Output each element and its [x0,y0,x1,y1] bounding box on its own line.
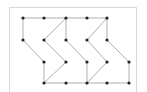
graph-edge [23,40,44,62]
graph-node [85,38,88,41]
graph-node [42,81,45,84]
graph-edge [87,62,107,83]
graph-node [105,81,108,84]
graph-node [42,60,45,63]
graph-edge [44,40,66,62]
graph-node [105,60,108,63]
graph-edge [87,18,107,40]
graph-node [42,16,45,19]
graph-edge [87,40,107,62]
graph-node [21,16,24,19]
edges-group [23,18,129,83]
graph-node [105,16,108,19]
graph-diagram [0,0,147,92]
graph-node [42,38,45,41]
graph-node [85,16,88,19]
graph-node [85,81,88,84]
graph-node [21,38,24,41]
graph-edge [44,18,66,40]
graph-edge [44,62,66,83]
graph-node [105,38,108,41]
graph-node [64,60,67,63]
graph-edge [66,40,87,62]
graph-edge [107,40,129,62]
graph-node [64,81,67,84]
graph-node [85,60,88,63]
graph-node [127,60,130,63]
graph-node [127,81,130,84]
graph-node [64,38,67,41]
graph-node [64,16,67,19]
